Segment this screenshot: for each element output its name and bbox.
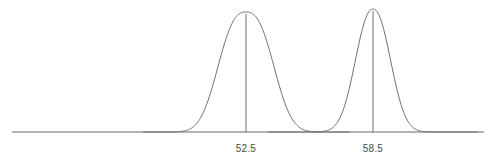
tick-label-right: 58.5 [363, 143, 384, 154]
plot-canvas: 52.5 58.5 [0, 0, 496, 163]
tick-label-left: 52.5 [236, 143, 257, 154]
distribution-figure: 52.5 58.5 [0, 0, 496, 163]
